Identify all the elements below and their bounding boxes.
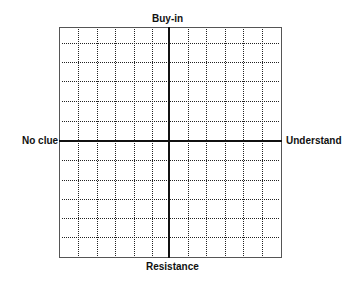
grid-vertical-line (152, 29, 153, 256)
grid-horizontal-line (62, 101, 279, 102)
grid-horizontal-line (62, 237, 279, 238)
grid-horizontal-line (62, 62, 279, 63)
grid-horizontal-line (62, 180, 279, 181)
grid-horizontal-line (62, 160, 279, 161)
vertical-axis (168, 27, 170, 258)
grid-vertical-line (206, 29, 207, 256)
grid-horizontal-line (62, 218, 279, 219)
grid-vertical-line (115, 29, 116, 256)
grid-vertical-line (78, 29, 79, 256)
grid-vertical-line (225, 29, 226, 256)
right-axis-label: Understand (286, 135, 342, 147)
grid-horizontal-line (62, 43, 279, 44)
bottom-axis-label: Resistance (146, 261, 199, 273)
grid-vertical-line (97, 29, 98, 256)
left-axis-label: No clue (22, 135, 58, 147)
grid-vertical-line (243, 29, 244, 256)
grid-horizontal-line (62, 121, 279, 122)
grid-horizontal-line (62, 199, 279, 200)
grid-vertical-line (134, 29, 135, 256)
grid-vertical-line (188, 29, 189, 256)
grid-horizontal-line (62, 81, 279, 82)
top-axis-label: Buy-in (152, 13, 183, 25)
grid-vertical-line (262, 29, 263, 256)
horizontal-axis (59, 140, 282, 142)
